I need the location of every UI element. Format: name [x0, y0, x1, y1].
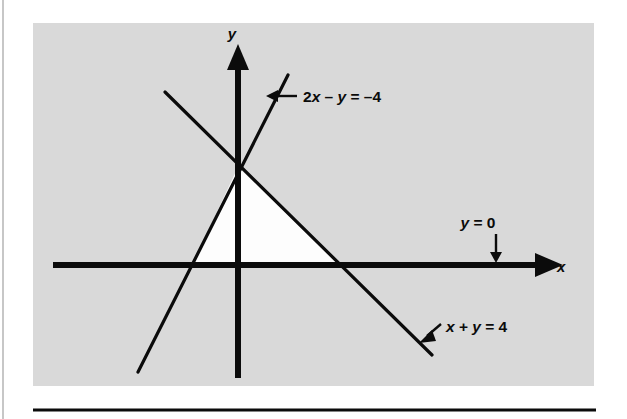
annotation-2x-minus-y-label: 2x – y = –4: [303, 88, 381, 105]
y-axis-label: y: [227, 25, 237, 42]
annotation-y-equals-0-label: y = 0: [460, 214, 496, 231]
figure-root: x y 2x – y = –4 y = 0 x + y = 4: [0, 0, 627, 419]
figure-panel: [33, 23, 594, 386]
annotation-x-plus-y-label: x + y = 4: [445, 318, 508, 335]
linear-inequality-graph: x y 2x – y = –4 y = 0 x + y = 4: [0, 0, 627, 419]
x-axis-label: x: [556, 258, 566, 275]
